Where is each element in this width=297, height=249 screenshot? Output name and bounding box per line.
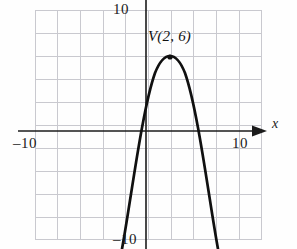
- parabola-curve: [122, 56, 218, 249]
- y-axis-bottom-tick-label: –10: [113, 232, 137, 247]
- graph-figure: 10 –10 –10 10 x V(2, 6): [0, 0, 297, 249]
- vertex-annotation-label: V(2, 6): [148, 29, 191, 44]
- x-axis-left-tick-label: –10: [13, 136, 37, 151]
- x-axis-name-label: x: [272, 117, 278, 131]
- y-axis-top-tick-label: 10: [113, 2, 129, 17]
- x-axis-right-tick-label: 10: [232, 136, 248, 151]
- vertex-point-marker: [167, 54, 172, 59]
